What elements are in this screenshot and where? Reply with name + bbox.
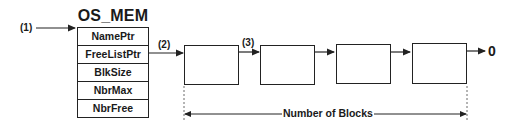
- field-freelistptr: FreeListPtr: [78, 45, 148, 63]
- null-terminator: 0: [488, 43, 496, 59]
- os-mem-struct: NamePtr FreeListPtr BlkSize NbrMax NbrFr…: [77, 27, 149, 118]
- field-nameptr: NamePtr: [78, 28, 148, 45]
- span-label: Number of Blocks: [282, 107, 374, 119]
- field-blksize: BlkSize: [78, 63, 148, 81]
- freelist-label: (2): [158, 39, 170, 50]
- struct-title: OS_MEM: [77, 7, 149, 25]
- memory-block-1: [184, 45, 239, 85]
- memory-block-4: [412, 43, 467, 84]
- block-link-label: (3): [242, 37, 254, 48]
- field-nbrfree: NbrFree: [78, 99, 148, 117]
- memory-block-3: [336, 44, 391, 84]
- field-nbrmax: NbrMax: [78, 81, 148, 99]
- memory-block-2: [260, 45, 315, 85]
- entry-label: (1): [20, 22, 32, 33]
